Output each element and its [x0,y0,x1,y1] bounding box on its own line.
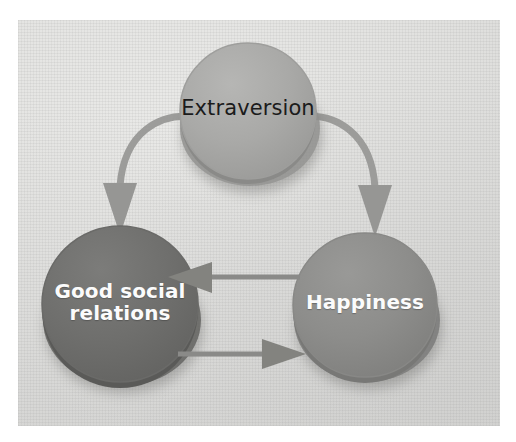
node-extraversion[interactable] [180,43,320,186]
edge-good-social-relations-to-happiness [178,339,306,369]
node-happiness[interactable] [293,233,440,383]
diagram-graphics [0,0,516,442]
figure-canvas: Extraversion Good social relations Happi… [0,0,516,442]
node-good-social-relations[interactable] [42,226,201,388]
